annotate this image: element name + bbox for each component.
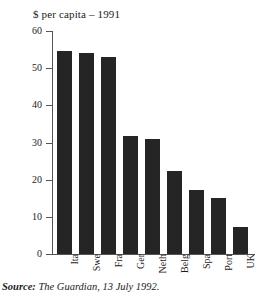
y-axis-tick-label: 60 [22, 25, 42, 36]
bar [101, 57, 116, 254]
bar [167, 171, 182, 254]
bar-series [52, 31, 255, 254]
x-axis-tick-label: Port [223, 254, 234, 288]
y-axis-tick-label: 0 [22, 248, 42, 259]
bar [57, 51, 72, 254]
bar [79, 53, 94, 254]
bar [189, 190, 204, 254]
source-text: The Guardian, 13 July 1992. [38, 281, 159, 292]
x-axis-tick-label: Belg [179, 254, 190, 288]
bar [233, 227, 248, 254]
bar [211, 198, 226, 254]
bar-chart-figure: $ per capita – 1991 0102030405060 ItaSwe… [0, 0, 272, 299]
x-axis-tick-label: UK [245, 254, 256, 288]
bar [145, 139, 160, 254]
y-axis-tick-label: 50 [22, 62, 42, 73]
y-axis-tick-label: 40 [22, 99, 42, 110]
chart-title: $ per capita – 1991 [33, 8, 120, 20]
y-axis-tick-label: 20 [22, 174, 42, 185]
x-axis-tick-label: Spa [201, 254, 212, 288]
y-axis-tick [46, 254, 52, 255]
source-note: Source: The Guardian, 13 July 1992. [2, 281, 159, 292]
y-axis-tick-label: 10 [22, 211, 42, 222]
source-label: Source: [2, 281, 36, 292]
y-axis-tick-label: 30 [22, 137, 42, 148]
bar [123, 136, 138, 254]
